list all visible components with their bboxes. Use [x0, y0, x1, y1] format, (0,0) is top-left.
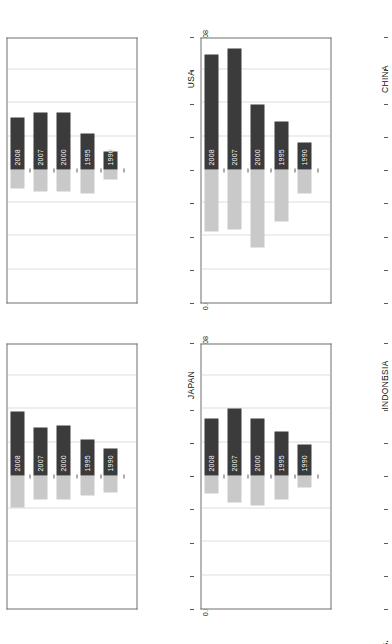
axis-tick-mark — [384, 237, 388, 238]
axis-tick-mark — [190, 543, 194, 544]
chart-panel-indonesia: 200820072000199519900.080.060.040.020.00… — [196, 324, 388, 628]
axis-tick-labels: 0.080.060.040.020.000.020.040.060.08 — [2, 324, 194, 628]
axis-tick-labels: 0.080.060.040.020.000.020.040.060.08 — [2, 18, 194, 322]
axis-tick-mark — [384, 476, 388, 477]
axis-tick-mark — [384, 303, 388, 304]
source-text: The Asian International Input–Output Tab… — [379, 640, 390, 644]
chart-panel-usa: 200820072000199519900.080.060.040.020.00… — [2, 18, 194, 322]
axis-tick-mark — [384, 543, 388, 544]
axis-tick-mark — [190, 609, 194, 610]
axis-tick-mark — [190, 137, 194, 138]
axis-tick-mark — [384, 576, 388, 577]
axis-tick-mark — [190, 203, 194, 204]
panel-title-indonesia: INDONESIA — [377, 350, 392, 420]
axis-tick-labels: 0.080.060.040.020.000.020.040.060.08 — [196, 18, 388, 322]
axis-tick-mark — [384, 509, 388, 510]
axis-tick-mark — [190, 37, 194, 38]
chart-panel-china: 200820072000199519900.080.060.040.020.00… — [196, 18, 388, 322]
axis-tick-mark — [190, 237, 194, 238]
panel-title-china: CHINA — [377, 44, 392, 114]
figure-panel-grid: 200820072000199519900.080.060.040.020.00… — [0, 0, 392, 644]
axis-tick-mark — [384, 37, 388, 38]
axis-tick-mark — [384, 270, 388, 271]
axis-tick-mark — [190, 303, 194, 304]
axis-tick-mark — [384, 609, 388, 610]
axis-tick-mark — [190, 509, 194, 510]
axis-tick-mark — [384, 443, 388, 444]
axis-tick-mark — [190, 476, 194, 477]
axis-tick-mark — [190, 343, 194, 344]
axis-tick-mark — [190, 576, 194, 577]
chart-panel-japan: 200820072000199519900.080.060.040.020.00… — [2, 324, 194, 628]
axis-tick-mark — [384, 170, 388, 171]
axis-tick-mark — [384, 203, 388, 204]
axis-tick-labels: 0.080.060.040.020.000.020.040.060.08 — [196, 324, 388, 628]
axis-tick-mark — [384, 137, 388, 138]
axis-tick-mark — [190, 170, 194, 171]
axis-tick-mark — [190, 443, 194, 444]
axis-tick-mark — [384, 343, 388, 344]
source-note: Source: The Asian International Input–Ou… — [379, 640, 390, 644]
axis-tick-mark — [190, 270, 194, 271]
